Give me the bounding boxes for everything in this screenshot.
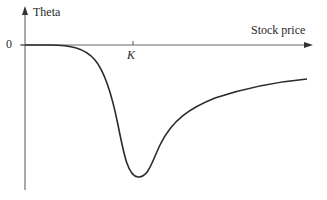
theta-chart: Theta 0 Stock price K: [0, 0, 327, 200]
x-axis-label: Stock price: [251, 23, 305, 38]
x-axis-arrow-icon: [304, 42, 313, 48]
strike-price-label: K: [127, 48, 135, 63]
zero-tick-label: 0: [6, 37, 12, 52]
y-axis-arrow-icon: [22, 6, 28, 15]
theta-curve: [25, 45, 307, 177]
y-axis-label: Theta: [33, 5, 60, 20]
